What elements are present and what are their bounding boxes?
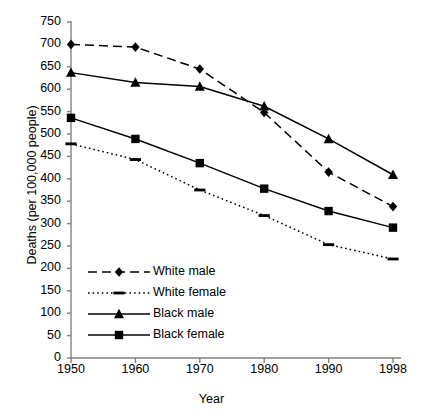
y-tick-label: 700 xyxy=(21,36,61,50)
triangle-marker xyxy=(388,170,398,179)
diamond-marker xyxy=(196,64,204,74)
series-line-black-female xyxy=(71,118,393,228)
y-tick-label: 300 xyxy=(21,216,61,230)
diamond-marker xyxy=(67,40,75,50)
y-tick-label: 750 xyxy=(21,14,61,28)
square-marker xyxy=(196,159,204,167)
square-marker xyxy=(324,207,332,215)
x-tick-label: 1990 xyxy=(299,362,359,376)
dash-marker xyxy=(113,292,124,295)
dash-marker xyxy=(194,189,205,192)
y-tick-label: 450 xyxy=(21,148,61,162)
y-tick-label: 400 xyxy=(21,171,61,185)
series-line-white-female xyxy=(71,144,393,259)
square-marker xyxy=(115,331,123,339)
y-tick-label: 200 xyxy=(21,260,61,274)
axis-lines xyxy=(67,21,401,363)
x-tick-label: 1960 xyxy=(105,362,165,376)
y-tick-label: 50 xyxy=(21,328,61,342)
series-line-black-male xyxy=(71,73,393,175)
line-chart: Deaths (per 100,000 people) Year 0501001… xyxy=(0,0,423,420)
square-marker xyxy=(67,114,75,122)
x-tick-label: 1970 xyxy=(170,362,230,376)
x-tick-label: 1950 xyxy=(41,362,101,376)
dash-marker xyxy=(323,243,334,246)
triangle-marker xyxy=(66,67,76,76)
series-lines xyxy=(65,40,398,261)
dash-marker xyxy=(259,214,270,217)
dash-marker xyxy=(65,142,76,145)
x-tick-label: 1998 xyxy=(363,362,423,376)
y-tick-label: 650 xyxy=(21,59,61,73)
y-tick-label: 250 xyxy=(21,238,61,252)
plot-area xyxy=(0,0,423,420)
diamond-marker xyxy=(131,42,139,52)
diamond-marker xyxy=(115,267,123,277)
y-tick-label: 100 xyxy=(21,305,61,319)
legend-label-black-female: Black female xyxy=(153,327,225,341)
diamond-marker xyxy=(324,167,332,177)
legend-label-white-female: White female xyxy=(153,285,226,299)
y-tick-label: 600 xyxy=(21,81,61,95)
y-tick-label: 500 xyxy=(21,126,61,140)
square-marker xyxy=(131,135,139,143)
legend-marks xyxy=(88,267,150,339)
square-marker xyxy=(260,184,268,192)
square-marker xyxy=(389,223,397,231)
triangle-marker xyxy=(324,134,334,143)
series-line-white-male xyxy=(71,44,393,206)
dash-marker xyxy=(130,158,141,161)
y-tick-label: 350 xyxy=(21,193,61,207)
legend-label-black-male: Black male xyxy=(153,306,214,320)
y-tick-label: 550 xyxy=(21,104,61,118)
legend-label-white-male: White male xyxy=(153,264,216,278)
diamond-marker xyxy=(389,202,397,212)
y-tick-label: 150 xyxy=(21,283,61,297)
x-tick-label: 1980 xyxy=(234,362,294,376)
dash-marker xyxy=(387,258,398,261)
